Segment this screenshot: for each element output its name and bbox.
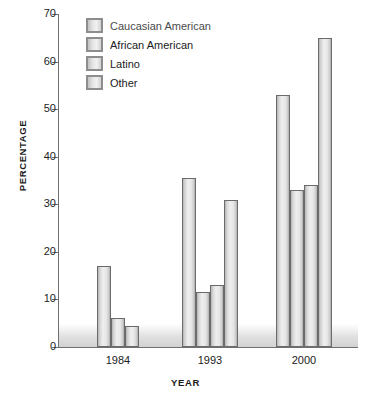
legend-label: African American xyxy=(110,39,193,51)
y-tick-label: 20 xyxy=(16,246,56,257)
legend-swatch-icon xyxy=(86,75,103,90)
y-tick-label: 70 xyxy=(16,8,56,19)
legend-swatch-icon xyxy=(86,56,103,71)
bar xyxy=(318,38,332,347)
bar xyxy=(182,178,196,347)
y-tick-label: 50 xyxy=(16,103,56,114)
legend-label: Other xyxy=(110,77,138,89)
bar-chart: PERCENTAGE YEAR 010203040506070 19841993… xyxy=(0,0,371,400)
legend-item: Other xyxy=(86,73,236,92)
legend-swatch-icon xyxy=(86,18,103,33)
y-tick-label: 10 xyxy=(16,293,56,304)
legend-label: Caucasian American xyxy=(110,20,211,32)
bar xyxy=(276,95,290,347)
y-axis-line xyxy=(58,14,59,348)
legend-swatch-icon xyxy=(86,37,103,52)
x-axis-line xyxy=(58,347,358,348)
chart-legend: Caucasian AmericanAfrican AmericanLatino… xyxy=(86,16,236,92)
legend-item: Latino xyxy=(86,54,236,73)
y-tick-label: 40 xyxy=(16,151,56,162)
y-tick-label: 30 xyxy=(16,198,56,209)
bar xyxy=(125,326,139,347)
bar xyxy=(111,318,125,347)
x-tick-label-1993: 1993 xyxy=(180,354,240,366)
x-tick-label-1984: 1984 xyxy=(88,354,148,366)
y-tick-label: 60 xyxy=(16,56,56,67)
legend-label: Latino xyxy=(110,58,140,70)
bar xyxy=(290,190,304,347)
bar xyxy=(196,292,210,347)
bar xyxy=(210,285,224,347)
bar xyxy=(224,200,238,347)
bar xyxy=(97,266,111,347)
x-axis-title: YEAR xyxy=(0,377,371,388)
legend-item: African American xyxy=(86,35,236,54)
x-tick-label-2000: 2000 xyxy=(274,354,334,366)
bar xyxy=(304,185,318,347)
legend-item: Caucasian American xyxy=(86,16,236,35)
y-tick-label: 0 xyxy=(16,341,56,352)
